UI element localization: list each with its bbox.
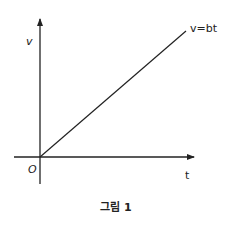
origin-label: O xyxy=(28,164,37,175)
line-annotation: v=bt xyxy=(190,23,217,34)
x-axis-label: t xyxy=(185,170,189,181)
y-axis-label: v xyxy=(26,36,33,47)
data-line-v-bt xyxy=(40,31,186,157)
figure-caption: 그림 1 xyxy=(0,198,232,214)
